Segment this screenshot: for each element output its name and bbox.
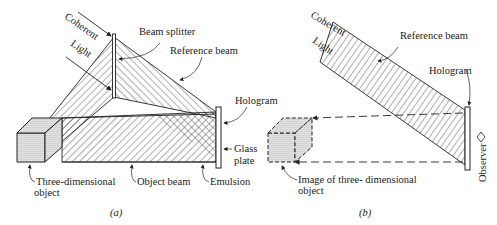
label-emulsion: Emulsion	[210, 176, 251, 187]
label-observer: Observer	[477, 143, 488, 182]
label-image-line2: object	[298, 185, 324, 196]
label-image-line1: Image of three- dimensional	[298, 174, 417, 185]
label-light-a: Light	[69, 38, 94, 60]
label-object-beam: Object beam	[137, 176, 190, 187]
label-reference-beam-a: Reference beam	[170, 45, 238, 56]
label-coherent-b: Coherent	[309, 9, 348, 38]
hologram-plate-b	[465, 107, 470, 170]
label-hologram-b: Hologram	[429, 65, 472, 76]
label-hologram-a: Hologram	[235, 95, 278, 106]
reference-beam-region-b	[320, 22, 465, 165]
beam-splitter	[113, 34, 116, 98]
panel-a: Coherent Light Beam splitter Reference b…	[17, 11, 278, 219]
virtual-image-cube	[268, 118, 312, 162]
label-reference-beam-b: Reference beam	[400, 30, 468, 41]
three-dimensional-object	[17, 118, 62, 162]
label-beam-splitter: Beam splitter	[139, 26, 196, 37]
caption-a: (a)	[110, 207, 123, 219]
label-object-line2: object	[34, 187, 60, 198]
hologram-plate-a	[216, 107, 221, 168]
label-plate: plate	[234, 155, 255, 166]
panel-b: Coherent Light Reference beam Hologram O…	[268, 9, 488, 219]
caption-b: (b)	[359, 207, 372, 219]
holography-diagram: Coherent Light Beam splitter Reference b…	[0, 0, 497, 225]
observer-eye-icon	[477, 132, 485, 142]
label-object-line1: Three-dimensional	[36, 176, 115, 187]
label-glass: Glass	[234, 143, 257, 154]
